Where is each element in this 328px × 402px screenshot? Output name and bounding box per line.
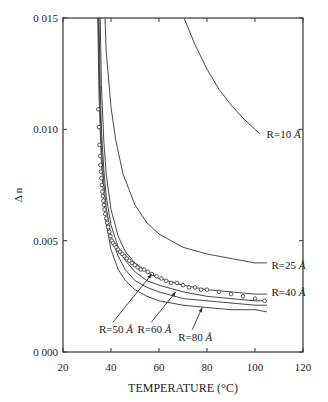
curve-r-40- xyxy=(100,18,267,294)
experimental-points xyxy=(96,107,266,302)
y-axis-label: Δ n xyxy=(12,187,24,202)
curve-annotations: R=10 ÅR=25 ÅR=40 ÅR=50 ÅR=60 ÅR=80 Å xyxy=(99,128,306,343)
data-point xyxy=(103,212,107,216)
curve-r-80- xyxy=(98,18,267,312)
data-point xyxy=(103,208,107,212)
data-point xyxy=(98,143,102,147)
data-point xyxy=(96,107,100,111)
curve-label: R=80 Å xyxy=(178,331,212,343)
data-point xyxy=(105,221,109,225)
curve-label: R=50 Å xyxy=(99,323,133,335)
y-tick-label: 0 015 xyxy=(33,12,58,24)
data-point xyxy=(160,277,164,281)
data-point xyxy=(146,270,150,274)
x-tick-label: 60 xyxy=(154,361,166,373)
curve-label: R=25 Å xyxy=(271,259,305,271)
x-tick-label: 20 xyxy=(58,361,70,373)
data-point xyxy=(142,268,146,272)
curve-label: R=60 Å xyxy=(137,323,171,335)
data-point xyxy=(241,295,245,299)
chart: 204060801001200 0000.0050.0100 015 R=10 … xyxy=(0,0,328,402)
annotation-arrow xyxy=(113,274,152,322)
x-tick-label: 80 xyxy=(202,361,214,373)
data-point xyxy=(100,183,104,187)
data-point xyxy=(205,288,209,292)
x-tick-label: 100 xyxy=(247,361,264,373)
annotation-arrow xyxy=(151,292,175,322)
curve-label: R=10 Å xyxy=(267,128,301,140)
data-point xyxy=(181,283,185,287)
data-point xyxy=(100,177,104,181)
data-point xyxy=(102,199,106,203)
x-tick-label: 120 xyxy=(295,361,312,373)
curve-label: R=40 Å xyxy=(271,286,305,298)
data-point xyxy=(169,281,173,285)
data-point xyxy=(99,170,103,174)
y-tick-label: 0.005 xyxy=(33,235,58,247)
x-axis-label: TEMPERATURE (°C) xyxy=(128,381,238,395)
curve-label-text: R=60 Å xyxy=(137,323,171,335)
data-point xyxy=(101,190,105,194)
data-point xyxy=(229,292,233,296)
data-point xyxy=(164,279,168,283)
data-point xyxy=(155,274,159,278)
data-point xyxy=(217,290,221,294)
y-tick-label: 0.010 xyxy=(33,123,58,135)
data-point xyxy=(108,230,112,234)
data-point xyxy=(199,288,203,292)
curve-r-60- xyxy=(98,18,267,305)
y-tick-label: 0 000 xyxy=(33,346,58,358)
model-curves xyxy=(98,18,267,312)
data-point xyxy=(109,234,113,238)
data-point xyxy=(104,217,108,221)
data-point xyxy=(253,297,257,301)
curve-label-text: R=25 Å xyxy=(271,259,305,271)
curve-label-text: R=40 Å xyxy=(271,286,305,298)
data-point xyxy=(98,154,102,158)
data-point xyxy=(193,286,197,290)
data-point xyxy=(97,125,101,129)
axes: 204060801001200 0000.0050.0100 015 xyxy=(33,12,312,373)
data-point xyxy=(99,163,103,167)
data-point xyxy=(102,203,106,207)
curve-label-text: R=10 Å xyxy=(267,128,301,140)
curve-label-text: R=80 Å xyxy=(178,331,212,343)
curve-r-10- xyxy=(184,18,260,134)
curve-label-text: R=50 Å xyxy=(99,323,133,335)
data-point xyxy=(263,299,267,303)
data-point xyxy=(101,194,105,198)
data-point xyxy=(106,226,110,230)
data-point xyxy=(175,281,179,285)
x-tick-label: 40 xyxy=(106,361,118,373)
curve-r-25- xyxy=(105,18,267,263)
data-point xyxy=(187,286,191,290)
